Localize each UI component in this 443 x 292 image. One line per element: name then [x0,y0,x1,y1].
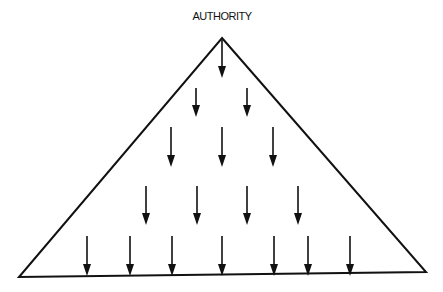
downward-arrows-group [83,40,354,276]
arrowhead-icon [142,213,150,225]
arrowhead-icon [192,105,200,117]
arrowhead-icon [167,155,175,167]
authority-pyramid-diagram [0,0,443,292]
arrowhead-icon [243,213,251,225]
arrowhead-icon [218,66,226,78]
arrowhead-icon [193,213,201,225]
arrowhead-icon [269,155,277,167]
arrowhead-icon [83,264,91,276]
arrowhead-icon [294,213,302,225]
arrowhead-icon [243,105,251,117]
arrowhead-icon [346,264,354,276]
arrowhead-icon [218,155,226,167]
arrowhead-icon [126,264,134,276]
